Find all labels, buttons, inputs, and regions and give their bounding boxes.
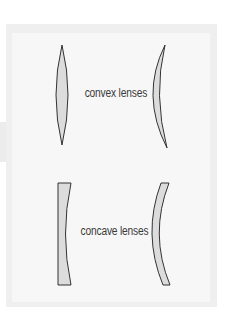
concave-lenses-label: concave lenses: [81, 224, 144, 238]
plano-concave-lens-icon: [58, 183, 71, 285]
lens-diagram: [0, 0, 229, 318]
convex-meniscus-lens-icon: [153, 45, 167, 148]
convex-lenses-label: convex lenses: [85, 86, 138, 100]
concave-meniscus-lens-icon: [152, 183, 170, 285]
biconvex-lens-icon: [56, 45, 68, 145]
